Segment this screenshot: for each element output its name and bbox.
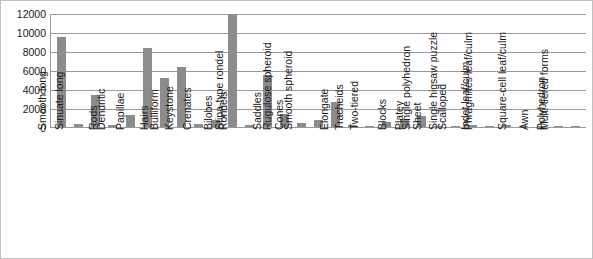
x-tick-slot: Crenates: [189, 130, 206, 256]
x-axis: Smooth longSinuate longRodsDendriticPapi…: [50, 130, 586, 256]
x-tick-label: Bulliform: [148, 89, 159, 130]
x-tick-slot: Sheet: [412, 130, 429, 256]
x-tick-label: Multi-tiered forms: [540, 49, 551, 130]
x-tick-slot: Smooth spheroid: [309, 130, 326, 256]
x-tick-label: Tracheids: [334, 84, 345, 130]
x-tick-label: Elongate: [319, 89, 330, 130]
x-tick-slot: Awn: [515, 130, 532, 256]
bar[interactable]: [126, 115, 135, 127]
bar[interactable]: [228, 15, 237, 127]
x-tick-slot: Sinuate long: [69, 130, 86, 256]
x-tick-slot: Cones: [275, 130, 292, 256]
x-tick-slot: Saddles: [258, 130, 275, 256]
x-tick-slot: Papillae: [121, 130, 138, 256]
y-tick-label: 12000: [17, 9, 46, 20]
x-tick-label: Sinuate long: [54, 72, 65, 130]
x-tick-slot: Stipa-type rondel: [241, 130, 258, 256]
y-tick-label: 8000: [23, 47, 46, 58]
x-tick-slot: Keystone: [172, 130, 189, 256]
x-tick-label: Square-cell leaf/culm: [497, 32, 508, 130]
x-tick-slot: Multi-tiered forms: [567, 130, 584, 256]
x-tick-label: Stipa-type rondel: [215, 51, 226, 130]
bar[interactable]: [571, 126, 580, 127]
x-tick-label: Dendritic: [96, 89, 107, 130]
x-tick-label: Smooth long: [36, 71, 47, 130]
x-tick-slot: Phragmites leaf/culm: [498, 130, 515, 256]
x-tick-label: Keystone: [164, 86, 175, 130]
x-tick-label: Bilobes: [203, 96, 214, 130]
bar-slot: [293, 14, 310, 127]
x-tick-slot: Bulliform: [155, 130, 172, 256]
x-tick-slot: Smooth long: [52, 130, 69, 256]
x-tick-label: Single higsaw puzzle: [428, 32, 439, 130]
x-tick-label: Rugulose spheroid: [262, 42, 273, 130]
x-tick-slot: Indet leaf/culm: [481, 130, 498, 256]
x-tick-slot: Rods: [86, 130, 103, 256]
x-tick-slot: Rondels: [224, 130, 241, 256]
bar-slot: [550, 14, 567, 127]
x-tick-label: Blocks: [376, 99, 387, 130]
bar[interactable]: [554, 126, 563, 127]
x-tick-label: Single polyhedron: [401, 46, 412, 130]
bar[interactable]: [74, 124, 83, 127]
x-tick-label: Sheet: [412, 103, 423, 130]
x-tick-slot: Two-tiered: [361, 130, 378, 256]
x-tick-label: Two-tiered: [350, 81, 361, 130]
bar[interactable]: [297, 123, 306, 127]
x-tick-slot: Dendritic: [103, 130, 120, 256]
x-tick-label: Smooth spheroid: [283, 51, 294, 130]
x-tick-slot: Bilobes: [206, 130, 223, 256]
x-tick-label: Papillae: [116, 93, 127, 130]
x-tick-slot: Rugulose spheroid: [292, 130, 309, 256]
bar-slot: [70, 14, 87, 127]
x-tick-label: Awn: [519, 110, 530, 130]
x-tick-slot: Elongate: [327, 130, 344, 256]
y-tick-label: 10000: [17, 28, 46, 39]
x-tick-slot: Single polyhedron: [429, 130, 446, 256]
x-tick-label: Phragmites leaf/culm: [463, 32, 474, 130]
x-tick-slot: Polyhedron: [550, 130, 567, 256]
x-tick-label: Crenates: [182, 87, 193, 130]
x-tick-slot: Platey: [395, 130, 412, 256]
x-tick-slot: Tracheids: [344, 130, 361, 256]
bar-slot: [567, 14, 584, 127]
bar-chart: 020004000600080001000012000 Smooth longS…: [0, 0, 593, 259]
x-tick-slot: Square-cell leaf/culm: [532, 130, 549, 256]
x-tick-slot: Scalloped: [447, 130, 464, 256]
bar[interactable]: [365, 126, 374, 127]
x-tick-slot: Hairs: [138, 130, 155, 256]
bar[interactable]: [485, 126, 494, 127]
x-tick-slot: Single higsaw puzzle: [464, 130, 481, 256]
x-tick-slot: Blocks: [378, 130, 395, 256]
